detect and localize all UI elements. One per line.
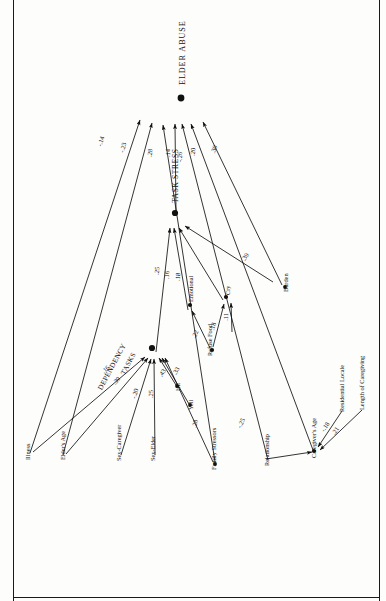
hit-yell-indicators: Hit Yell xyxy=(174,383,194,410)
burden-indicator: Burden xyxy=(282,273,289,292)
coef-burden-task-stress: .39 xyxy=(240,252,250,262)
residential-locale-label: Residential Locale xyxy=(338,365,345,412)
coef-dependency-task-stress: .25 xyxy=(153,266,161,275)
paths-to-caregivers-age: -.25 -.18 .21 xyxy=(235,410,362,459)
dependency-tasks-dot xyxy=(149,345,155,351)
family-stressors-label: Family Stressors xyxy=(210,427,217,470)
coef-elders-age-dependency: .39 xyxy=(111,375,122,386)
coef-emotional-task-stress: .16 xyxy=(163,270,171,279)
coef-caregivers-age-abuse: .20 xyxy=(189,147,197,156)
cry-label: Cry xyxy=(224,285,231,295)
coef-cry-loading: .11 xyxy=(222,313,229,321)
coef-sex-elder-dependency: .25 xyxy=(147,390,154,398)
coef-illness-abuse: -.14 xyxy=(96,135,106,148)
sex-caregiver-label: Sex-Caregiver xyxy=(115,424,122,461)
node-elder-abuse: ELDER ABUSE xyxy=(178,20,187,101)
coef-elders-age-abuse: -.23 xyxy=(118,142,127,154)
path-illness-to-abuse xyxy=(30,120,140,453)
coef-refuse-food-cry: .18 xyxy=(208,322,217,332)
yell-label: Yell xyxy=(187,400,194,410)
paths-to-task-stress xyxy=(156,226,273,352)
task-stress-label: TASK STRESS xyxy=(171,148,180,203)
task-stress-dot xyxy=(172,210,178,216)
emotional-dot xyxy=(188,303,192,307)
coef-refuse-food-emotional: .22 xyxy=(190,329,200,339)
path-caregivers-age-to-abuse xyxy=(191,124,313,450)
burden-label: Burden xyxy=(282,273,289,292)
illness-label: Illness xyxy=(24,443,31,460)
path-dependency-to-task-stress xyxy=(156,228,170,352)
exogenous-variables: Illness Elder's Age Sex-Caregiver Sex-El… xyxy=(24,355,365,470)
path-diagram: ELDER ABUSE -.14 -.23 .28 .14 -.26 .20 .… xyxy=(0,0,386,601)
coef-sex-caregiver-dependency: -.20 xyxy=(130,388,139,400)
coef-cry-task-stress: .18 xyxy=(174,272,182,281)
indicator-cluster: Emotional Cry Refuse Food .22 .18 .11 xyxy=(187,276,232,356)
emotional-label: Emotional xyxy=(187,276,194,302)
elders-age-label: Elder's Age xyxy=(59,431,66,460)
path-cry-loading xyxy=(231,303,232,332)
coef-yell-dependency: .33 xyxy=(171,366,181,376)
coef-refuse-food-dependency: .28 xyxy=(190,419,198,428)
length-of-caregiving-label: Length of Caregiving xyxy=(358,355,365,410)
path-cry-to-task-stress xyxy=(179,228,223,300)
relationship-label: Relationship xyxy=(263,434,270,466)
sex-elder-label: Sex-Elder xyxy=(149,435,156,461)
coef-burden-abuse: .30 xyxy=(209,144,218,154)
coef-family-stressors-abuse: .28 xyxy=(146,148,154,157)
hit-label: Hit xyxy=(174,383,181,391)
figure-page: ELDER ABUSE -.14 -.23 .28 .14 -.26 .20 .… xyxy=(0,0,386,601)
path-relationship-to-caregivers-age xyxy=(266,452,312,459)
path-burden-to-task-stress xyxy=(185,226,273,282)
elder-abuse-dot xyxy=(178,95,185,102)
coef-relationship-caregivers-age: -.25 xyxy=(235,417,246,429)
elder-abuse-label: ELDER ABUSE xyxy=(178,20,187,85)
